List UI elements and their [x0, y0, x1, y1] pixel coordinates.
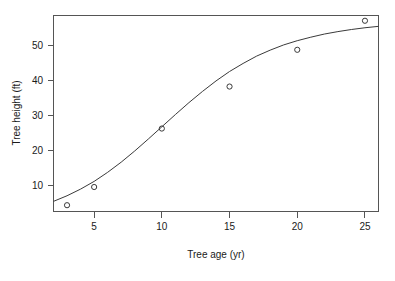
data-points: [64, 18, 367, 208]
x-tick-label-5: 5: [91, 221, 97, 232]
scatter-plot-svg: 5 10 15 20 25 10 20 30 40 50 Tree age (y…: [0, 0, 395, 281]
x-axis-tick-labels: 5 10 15 20 25: [91, 221, 371, 232]
plot-panel-border: [54, 16, 379, 212]
data-point-age-20: [295, 47, 300, 52]
chart-figure: 5 10 15 20 25 10 20 30 40 50 Tree age (y…: [0, 0, 395, 281]
data-point-age-5: [92, 184, 97, 189]
y-tick-label-20: 20: [32, 145, 44, 156]
data-point-age-25: [362, 18, 367, 23]
x-axis-ticks: [94, 212, 365, 218]
y-tick-label-40: 40: [32, 75, 44, 86]
x-tick-label-15: 15: [224, 221, 236, 232]
y-axis-title: Tree height (ft): [11, 80, 22, 145]
data-point-age-3: [64, 203, 69, 208]
y-tick-label-10: 10: [32, 180, 44, 191]
y-axis-ticks: [48, 45, 54, 185]
fitted-curve: [54, 26, 379, 201]
x-tick-label-20: 20: [292, 221, 304, 232]
x-axis-title: Tree age (yr): [187, 249, 244, 260]
y-tick-label-30: 30: [32, 110, 44, 121]
x-tick-label-25: 25: [359, 221, 371, 232]
y-tick-label-50: 50: [32, 40, 44, 51]
x-tick-label-10: 10: [156, 221, 168, 232]
data-point-age-15: [227, 84, 232, 89]
y-axis-tick-labels: 10 20 30 40 50: [32, 40, 44, 191]
